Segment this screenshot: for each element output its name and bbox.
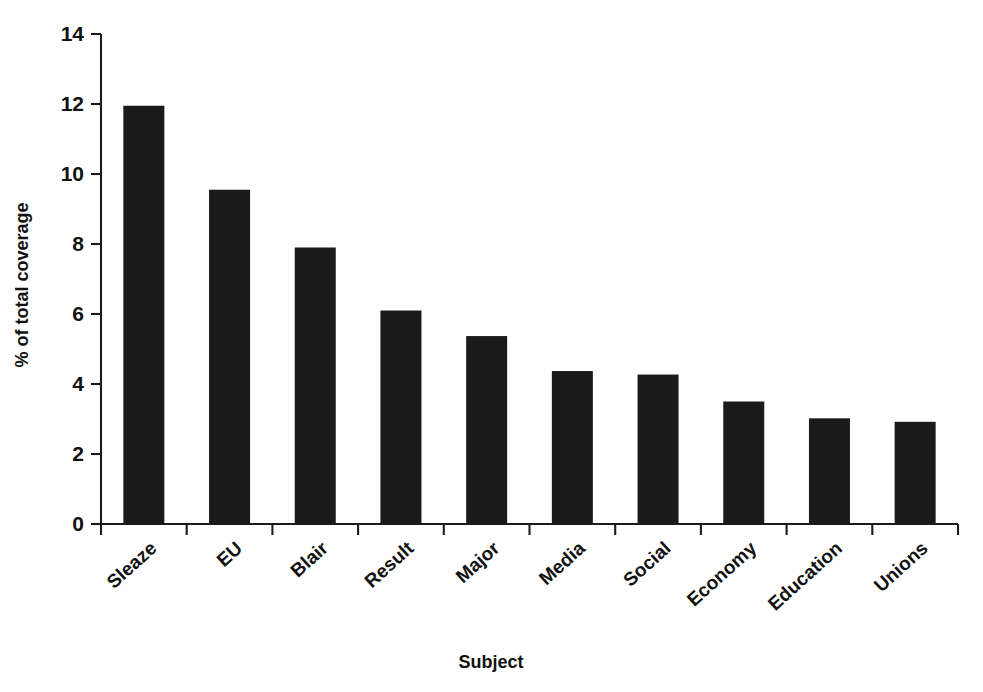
bar — [295, 248, 336, 525]
y-axis-title: % of total coverage — [12, 202, 32, 367]
bar — [466, 336, 507, 524]
x-axis-title: Subject — [458, 652, 523, 672]
y-tick-label: 6 — [72, 302, 84, 325]
y-tick-label: 2 — [72, 442, 84, 465]
bar — [209, 190, 250, 524]
y-tick-label: 0 — [72, 512, 84, 535]
y-tick-label: 14 — [61, 22, 85, 45]
chart-canvas: 02468101214 SleazeEUBlairResultMajorMedi… — [0, 0, 983, 692]
y-tick-label: 10 — [61, 162, 84, 185]
y-tick-label: 4 — [72, 372, 84, 395]
bar — [380, 311, 421, 525]
y-tick-label: 8 — [72, 232, 84, 255]
bar — [123, 106, 164, 524]
y-tick-label: 12 — [61, 92, 84, 115]
bar — [723, 402, 764, 525]
bar — [638, 375, 679, 524]
bar — [895, 422, 936, 524]
bar — [809, 418, 850, 524]
bar-chart: 02468101214 SleazeEUBlairResultMajorMedi… — [0, 0, 983, 692]
bar — [552, 371, 593, 524]
